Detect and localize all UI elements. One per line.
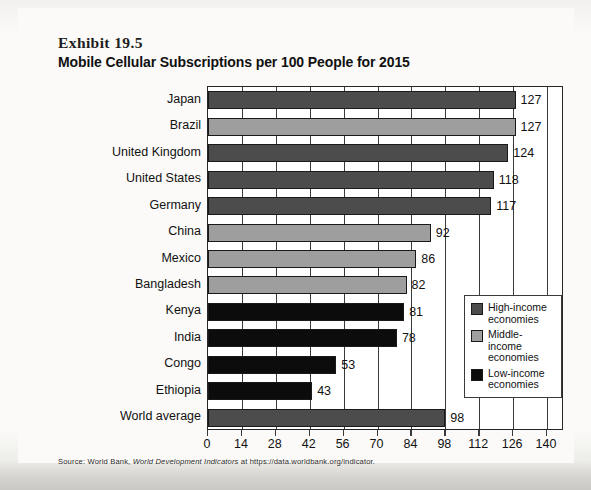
- source-prefix: Source: World Bank,: [58, 457, 133, 466]
- value-axis-label: 14: [234, 437, 248, 451]
- bar-value-label: 92: [436, 226, 450, 240]
- category-label: Kenya: [166, 303, 201, 317]
- value-axis-label: 98: [437, 437, 451, 451]
- bar[interactable]: [208, 382, 312, 400]
- legend-label-line2: economies: [488, 379, 545, 391]
- category-label: United States: [126, 171, 201, 185]
- bar[interactable]: [208, 224, 431, 242]
- bar[interactable]: [208, 409, 445, 427]
- value-axis-tick: [512, 430, 513, 436]
- value-axis-tick: [546, 430, 547, 436]
- category-label: World average: [120, 409, 201, 423]
- category-label: Mexico: [161, 251, 201, 265]
- chart-title: Mobile Cellular Subscriptions per 100 Pe…: [58, 54, 410, 70]
- bar[interactable]: [208, 329, 397, 347]
- legend-label: High-incomeeconomies: [488, 302, 547, 325]
- bar-value-label: 124: [513, 146, 534, 160]
- value-axis-label: 70: [370, 437, 384, 451]
- bar-row: 127: [208, 113, 562, 139]
- value-axis-tick: [377, 430, 378, 436]
- category-label: India: [174, 330, 201, 344]
- category-label: Japan: [167, 92, 201, 106]
- value-axis-tick: [343, 430, 344, 436]
- value-axis-label: 28: [268, 437, 282, 451]
- source-note: Source: World Bank, World Development In…: [58, 457, 375, 466]
- bar[interactable]: [208, 118, 516, 136]
- value-axis: 014284256708498112126140: [207, 430, 563, 454]
- bar-value-label: 43: [317, 384, 331, 398]
- bar[interactable]: [208, 144, 508, 162]
- exhibit-panel: Exhibit 19.5 Mobile Cellular Subscriptio…: [18, 8, 574, 463]
- bar-row: 92: [208, 219, 562, 245]
- legend-label-line2: economies: [488, 314, 547, 326]
- value-axis-label: 140: [536, 437, 557, 451]
- bar-value-label: 98: [450, 411, 464, 425]
- bar-value-label: 127: [521, 120, 542, 134]
- chart-legend: High-incomeeconomiesMiddle-incomeeconomi…: [464, 295, 562, 398]
- value-axis-tick: [309, 430, 310, 436]
- legend-label-line2: economies: [488, 352, 556, 364]
- category-label: Congo: [164, 356, 201, 370]
- bar-value-label: 53: [341, 358, 355, 372]
- legend-item[interactable]: Middle-incomeeconomies: [471, 329, 556, 364]
- value-axis-tick: [410, 430, 411, 436]
- bar-row: 127: [208, 87, 562, 113]
- bar-value-label: 118: [499, 173, 519, 187]
- bar-value-label: 117: [496, 199, 516, 213]
- category-axis-labels: JapanBrazilUnited KingdomUnited StatesGe…: [58, 86, 201, 430]
- category-label: China: [168, 224, 201, 238]
- bar-row: 86: [208, 246, 562, 272]
- legend-label: Middle-incomeeconomies: [488, 329, 556, 364]
- category-label: Brazil: [170, 118, 201, 132]
- legend-label: Low-incomeeconomies: [488, 368, 545, 391]
- legend-swatch-middle: [471, 330, 483, 342]
- bar-row: 98: [208, 405, 562, 431]
- bar[interactable]: [208, 276, 407, 294]
- value-axis-tick: [444, 430, 445, 436]
- bar[interactable]: [208, 197, 491, 215]
- exhibit-number: Exhibit 19.5: [58, 34, 143, 52]
- bar[interactable]: [208, 356, 336, 374]
- value-axis-tick: [207, 430, 208, 436]
- legend-item[interactable]: Low-incomeeconomies: [471, 368, 556, 391]
- bar-value-label: 127: [521, 93, 542, 107]
- legend-swatch-high: [471, 303, 483, 315]
- legend-swatch-low: [471, 369, 483, 381]
- value-axis-label: 0: [204, 437, 211, 451]
- category-label: Germany: [150, 198, 201, 212]
- source-italic-title: World Development Indicators: [133, 457, 239, 466]
- bar-value-label: 81: [409, 305, 423, 319]
- legend-label-line1: High-income: [488, 302, 547, 314]
- bar-row: 117: [208, 193, 562, 219]
- bar[interactable]: [208, 303, 404, 321]
- category-label: United Kingdom: [112, 145, 201, 159]
- bar[interactable]: [208, 91, 516, 109]
- value-axis-label: 112: [468, 437, 488, 451]
- value-axis-tick: [275, 430, 276, 436]
- legend-item[interactable]: High-incomeeconomies: [471, 302, 556, 325]
- bar[interactable]: [208, 250, 416, 268]
- bar-row: 118: [208, 166, 562, 192]
- value-axis-tick: [478, 430, 479, 436]
- value-axis-label: 56: [336, 437, 350, 451]
- value-axis-label: 126: [502, 437, 523, 451]
- value-axis-tick: [241, 430, 242, 436]
- bar-value-label: 86: [421, 252, 435, 266]
- value-axis-label: 42: [302, 437, 316, 451]
- bar-value-label: 82: [412, 278, 426, 292]
- value-axis-label: 84: [403, 437, 417, 451]
- category-label: Ethiopia: [156, 383, 201, 397]
- bar-value-label: 78: [402, 331, 416, 345]
- page-background: Exhibit 19.5 Mobile Cellular Subscriptio…: [0, 0, 591, 490]
- category-label: Bangladesh: [135, 277, 201, 291]
- legend-label-line1: Middle-income: [488, 329, 556, 352]
- source-suffix: at https://data.worldbank.org/indicator.: [239, 457, 376, 466]
- bar[interactable]: [208, 171, 494, 189]
- bar-row: 124: [208, 140, 562, 166]
